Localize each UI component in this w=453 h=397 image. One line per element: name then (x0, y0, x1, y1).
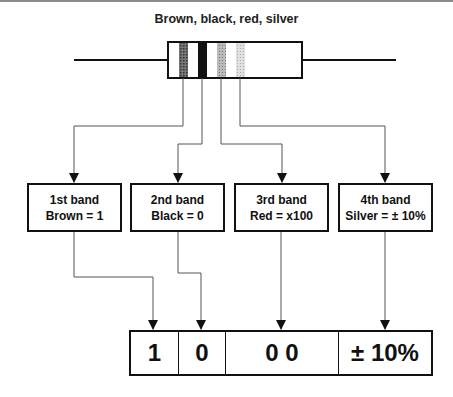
band-box-value: Silver = ± 10% (340, 208, 431, 224)
band-box-1: 1st band Brown = 1 (27, 183, 122, 232)
band-box-value: Brown = 1 (29, 208, 120, 224)
connector-band2 (178, 78, 202, 182)
connector-band3 (221, 78, 282, 182)
band-box-heading: 2nd band (132, 192, 223, 208)
band-red (217, 43, 226, 77)
band-box-value: Black = 0 (132, 208, 223, 224)
connector-result1 (74, 231, 153, 329)
band-box-heading: 4th band (340, 192, 431, 208)
result-value-box: 1 0 0 0 ± 10% (129, 330, 433, 376)
band-box-heading: 1st band (29, 192, 120, 208)
band-brown (179, 43, 188, 77)
band-box-heading: 3rd band (236, 192, 327, 208)
band-box-3: 3rd band Red = x100 (234, 183, 329, 232)
connector-band1 (74, 78, 183, 182)
resistor-body (168, 42, 302, 78)
band-box-value: Red = x100 (236, 208, 327, 224)
result-multiplier: 0 0 (226, 332, 339, 374)
result-tolerance: ± 10% (339, 332, 431, 374)
result-digit-1: 1 (131, 332, 179, 374)
band-box-4: 4th band Silver = ± 10% (338, 183, 433, 232)
connector-result2 (178, 231, 201, 329)
band-silver (236, 43, 245, 77)
band-black (198, 43, 207, 77)
band-box-2: 2nd band Black = 0 (130, 183, 225, 232)
connector-band4 (240, 78, 385, 182)
result-digit-2: 0 (179, 332, 226, 374)
